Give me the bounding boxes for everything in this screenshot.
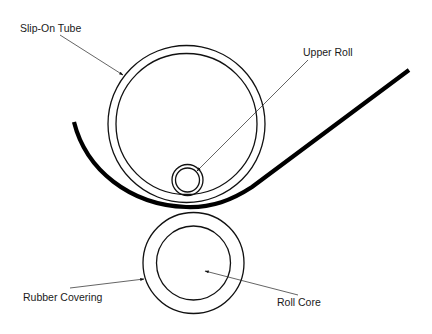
roll-core-leader [205, 271, 298, 295]
slip-on-tube [108, 46, 265, 203]
roll-nip-diagram: Slip-On Tube Upper Roll Rubber Covering … [0, 0, 432, 334]
lower-roll [143, 213, 244, 314]
label-slip-on-tube: Slip-On Tube [20, 22, 81, 34]
label-rubber-covering: Rubber Covering [23, 291, 103, 303]
rubber-covering-leader [70, 279, 144, 288]
label-roll-core: Roll Core [277, 296, 321, 308]
roll-core [157, 226, 231, 300]
upper-roll [172, 165, 203, 196]
label-upper-roll: Upper Roll [303, 46, 353, 58]
upper-roll-leader [197, 60, 308, 171]
rubber-covering [143, 213, 244, 314]
slip-on-tube-leader [60, 35, 123, 75]
